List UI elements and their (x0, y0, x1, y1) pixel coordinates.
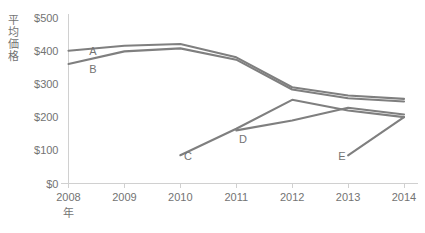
y-tick-label: $100 (34, 144, 58, 156)
series-line-C (180, 100, 404, 155)
series-label-D: D (239, 133, 247, 145)
y-tick-label: $400 (34, 45, 58, 57)
x-tick-label: 2010 (168, 191, 192, 203)
y-tick-label: $200 (34, 111, 58, 123)
line-chart-plot: $0$100$200$300$400$500 20082009201020112… (0, 0, 425, 233)
x-tick-label: 2009 (112, 191, 136, 203)
series-label-E: E (338, 150, 345, 162)
series-line-E (348, 117, 404, 155)
chart-container: 平 均 価 格 $0$100$200$300$400$500 200820092… (0, 0, 425, 233)
x-axis-title-group: 年 (63, 206, 74, 219)
axis-lines (61, 14, 419, 188)
series-label-C: C (184, 150, 192, 162)
x-tick-label: 2008 (56, 191, 80, 203)
x-tick-label: 2012 (280, 191, 304, 203)
series-lines (69, 44, 405, 155)
y-tick-label: $0 (46, 178, 58, 190)
x-tick-label: 2014 (392, 191, 416, 203)
y-tick-label: $500 (34, 12, 58, 24)
x-axis-title: 年 (63, 206, 74, 219)
x-tick-label: 2013 (336, 191, 360, 203)
x-axis-tick-labels: 2008200920102011201220132014 (56, 191, 416, 203)
y-tick-label: $300 (34, 78, 58, 90)
series-line-D (236, 108, 404, 131)
series-label-A: A (89, 45, 97, 57)
series-label-B: B (89, 63, 96, 75)
x-tick-label: 2011 (224, 191, 248, 203)
y-axis-tick-labels: $0$100$200$300$400$500 (34, 12, 58, 190)
